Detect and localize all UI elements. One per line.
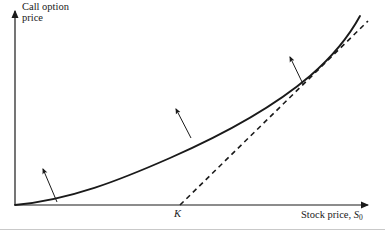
x-axis-label-text: Stock price,	[301, 209, 354, 220]
y-axis-label-line2: price	[22, 13, 69, 24]
intrinsic-value-line	[180, 21, 368, 205]
call-option-price-figure: Call optionprice Stock price, S0 K	[0, 0, 385, 236]
arrow-middle	[176, 109, 191, 138]
y-axis-label-line1: Call option	[22, 2, 69, 13]
bottom-divider	[0, 229, 385, 230]
call-option-price-curve	[15, 16, 360, 205]
arrow-lower	[43, 169, 57, 202]
plot-canvas	[0, 0, 385, 236]
axis-group	[15, 11, 368, 205]
strike-price-label: K	[174, 209, 181, 220]
x-axis-label-subscript: 0	[359, 213, 363, 222]
arrow-upper	[290, 57, 303, 84]
x-axis-label: Stock price, S0	[301, 210, 363, 223]
y-axis-label: Call optionprice	[22, 2, 69, 23]
